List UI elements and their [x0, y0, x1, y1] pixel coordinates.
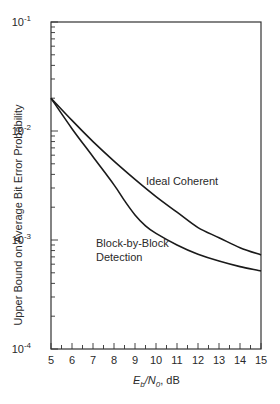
x-tick-label: 11 [171, 354, 182, 366]
y-axis-title: Upper Bound on Average Bit Error Probabi… [12, 104, 24, 326]
x-tick-label: 7 [90, 354, 96, 366]
block-by-block-label-line2: Detection [96, 251, 142, 263]
error-probability-chart: 56789101112131415 10-110-210-310-4 Ideal… [0, 0, 280, 404]
x-tick-label: 8 [111, 354, 117, 366]
x-tick-label: 13 [213, 354, 225, 366]
y-tick-label: 10-1 [12, 14, 32, 28]
x-tick-label: 10 [150, 354, 162, 366]
y-tick-label: 10-4 [12, 341, 32, 355]
x-axis-ticks: 56789101112131415 [48, 343, 267, 366]
x-tick-label: 5 [48, 354, 54, 366]
x-axis-title: Eb/N0, dB [133, 374, 180, 389]
x-tick-label: 14 [234, 354, 246, 366]
x-tick-label: 9 [132, 354, 138, 366]
ideal-coherent-label: Ideal Coherent [146, 175, 218, 187]
x-tick-label: 15 [255, 354, 267, 366]
x-tick-label: 6 [69, 354, 75, 366]
x-tick-label: 12 [192, 354, 204, 366]
block-by-block-label-line1: Block-by-Block [96, 237, 169, 249]
